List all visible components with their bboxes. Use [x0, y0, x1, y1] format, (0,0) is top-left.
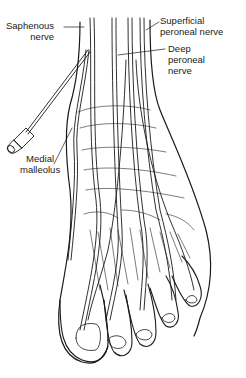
leader-lines — [54, 22, 165, 164]
label-deep-line3: nerve — [168, 65, 205, 76]
label-deep-peroneal-nerve: Deep peroneal nerve — [168, 43, 205, 76]
label-malleolus-line1: Medial — [20, 153, 60, 164]
label-superficial-peroneal-nerve: Superficial peroneal nerve — [160, 15, 223, 37]
label-saphenous-line1: Saphenous — [6, 20, 54, 31]
label-superficial-line2: peroneal nerve — [160, 26, 223, 37]
label-medial-malleolus: Medial malleolus — [20, 153, 60, 175]
label-saphenous-nerve: Saphenous nerve — [6, 20, 54, 42]
label-superficial-line1: Superficial — [160, 15, 223, 26]
toes — [60, 256, 201, 362]
label-deep-line2: peroneal — [168, 54, 205, 65]
label-deep-line1: Deep — [168, 43, 205, 54]
foot-nerve-illustration — [0, 0, 246, 378]
label-malleolus-line2: malleolus — [20, 164, 60, 175]
label-saphenous-line2: nerve — [6, 31, 54, 42]
